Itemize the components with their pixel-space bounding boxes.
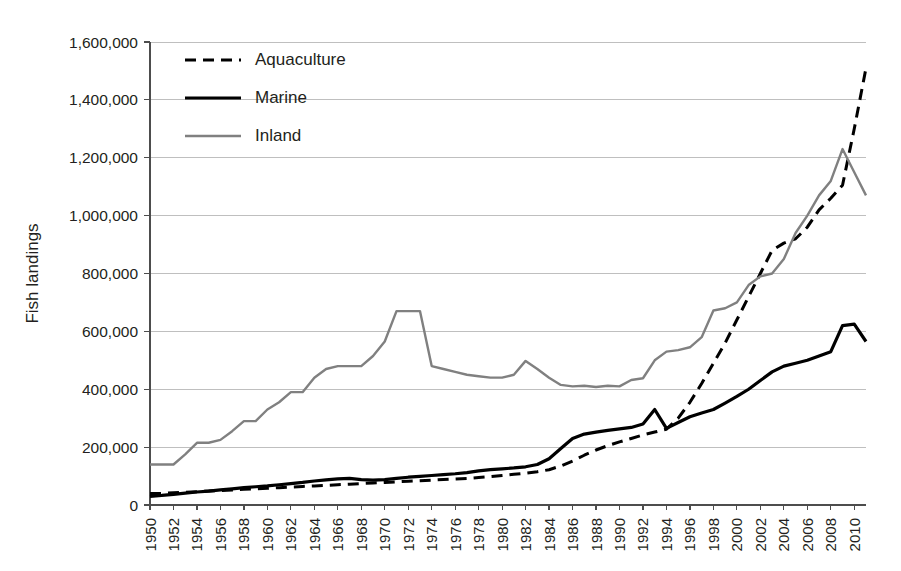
x-tick-label: 1950 [142, 518, 159, 551]
x-tick-label: 1988 [588, 518, 605, 551]
x-tick-label: 1998 [705, 518, 722, 551]
x-tick-label: 1962 [282, 518, 299, 551]
x-tick-label: 1972 [400, 518, 417, 551]
x-tick-label: 1974 [423, 518, 440, 551]
x-tick-label: 1978 [470, 518, 487, 551]
y-tick-label: 1,200,000 [69, 149, 138, 166]
x-tick-label: 1970 [376, 518, 393, 551]
series-line-inland [150, 149, 866, 464]
x-tick-label: 1990 [611, 518, 628, 551]
y-tick-label: 600,000 [82, 323, 138, 340]
x-tick-label: 1984 [541, 518, 558, 551]
legend-label-marine: Marine [255, 88, 307, 107]
x-tick-label: 1958 [235, 518, 252, 551]
y-axis-ticks: 0200,000400,000600,000800,0001,000,0001,… [69, 34, 150, 514]
x-tick-label: 1964 [306, 518, 323, 551]
x-tick-label: 1994 [658, 518, 675, 551]
x-tick-label: 2002 [752, 518, 769, 551]
x-tick-label: 1986 [564, 518, 581, 551]
x-tick-label: 1966 [329, 518, 346, 551]
x-tick-label: 1992 [634, 518, 651, 551]
y-tick-label: 800,000 [82, 265, 138, 282]
y-tick-label: 1,400,000 [69, 91, 138, 108]
y-tick-label: 1,600,000 [69, 34, 138, 51]
y-tick-label: 400,000 [82, 381, 138, 398]
y-tick-label: 1,000,000 [69, 207, 138, 224]
x-tick-label: 1960 [259, 518, 276, 551]
x-tick-label: 1980 [494, 518, 511, 551]
legend-label-inland: Inland [255, 126, 301, 145]
x-tick-label: 1954 [188, 518, 205, 551]
x-tick-label: 2004 [775, 518, 792, 551]
chart-canvas: 0200,000400,000600,000800,0001,000,0001,… [0, 0, 901, 571]
series-line-marine [150, 324, 866, 496]
x-tick-label: 1996 [681, 518, 698, 551]
x-tick-label: 1968 [353, 518, 370, 551]
x-tick-label: 1952 [165, 518, 182, 551]
x-tick-label: 2006 [799, 518, 816, 551]
y-axis-title: Fish landings [23, 223, 42, 323]
x-axis-ticks: 1950195219541956195819601962196419661968… [142, 505, 863, 551]
x-tick-label: 1982 [517, 518, 534, 551]
fish-landings-chart: 0200,000400,000600,000800,0001,000,0001,… [0, 0, 901, 571]
x-tick-label: 1956 [212, 518, 229, 551]
x-tick-label: 2010 [846, 518, 863, 551]
legend-label-aquaculture: Aquaculture [255, 50, 346, 69]
y-tick-label: 200,000 [82, 439, 138, 456]
y-tick-label: 0 [129, 497, 138, 514]
x-tick-label: 2000 [728, 518, 745, 551]
chart-legend: AquacultureMarineInland [185, 50, 346, 145]
x-tick-label: 1976 [447, 518, 464, 551]
x-tick-label: 2008 [822, 518, 839, 551]
